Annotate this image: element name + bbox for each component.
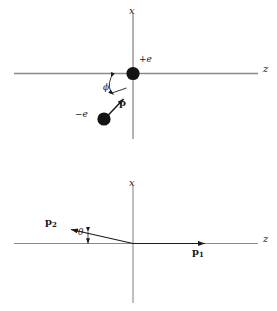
- negative-charge-dot: [97, 112, 110, 125]
- upper-z-axis-label: z: [263, 64, 268, 74]
- negative-charge-label: −e: [75, 110, 88, 119]
- upper-panel-graphics: [14, 14, 258, 139]
- momentum-p2-subscript: 2: [52, 220, 57, 229]
- positive-charge-dot: [126, 67, 139, 80]
- momentum-p2-label: p2: [45, 217, 57, 227]
- momentum-p-label: p: [119, 98, 126, 108]
- diagram-canvas: [0, 0, 277, 311]
- lower-panel-graphics: [14, 186, 258, 303]
- momentum-p1-subscript: 1: [199, 250, 204, 259]
- momentum-p1-symbol: p: [192, 246, 199, 257]
- upper-x-axis-label: x: [129, 6, 135, 16]
- phi-angle-label: ϕ: [103, 83, 109, 92]
- momentum-p1-label: p1: [192, 247, 204, 257]
- lower-x-axis-label: x: [129, 178, 135, 188]
- momentum-p2-symbol: p: [45, 216, 52, 227]
- positive-charge-label: +e: [139, 55, 152, 64]
- lower-z-axis-label: z: [263, 234, 268, 244]
- phi-reference-leg: [112, 88, 127, 93]
- physics-diagram-figure: x z +e −e ϕ p x z θ p2 p1: [0, 0, 277, 311]
- theta-angle-label: θ: [78, 228, 83, 237]
- phi-angle-arc: [109, 78, 113, 95]
